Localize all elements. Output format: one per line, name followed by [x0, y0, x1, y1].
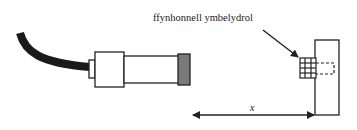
distance-label: x — [250, 103, 254, 113]
source-pointer-arrow — [263, 30, 298, 57]
radiation-experiment-diagram: ffynhonnell ymbelydrol x — [0, 0, 357, 130]
tube-window — [178, 54, 190, 85]
cable — [20, 33, 90, 67]
source-holder-block — [315, 40, 339, 115]
source-label: ffynhonnell ymbelydrol — [153, 13, 253, 24]
detector-tube — [89, 52, 190, 87]
tube-connector — [89, 60, 95, 78]
tube-base — [95, 52, 124, 87]
tube-body — [124, 56, 179, 83]
radioactive-source — [300, 58, 316, 78]
